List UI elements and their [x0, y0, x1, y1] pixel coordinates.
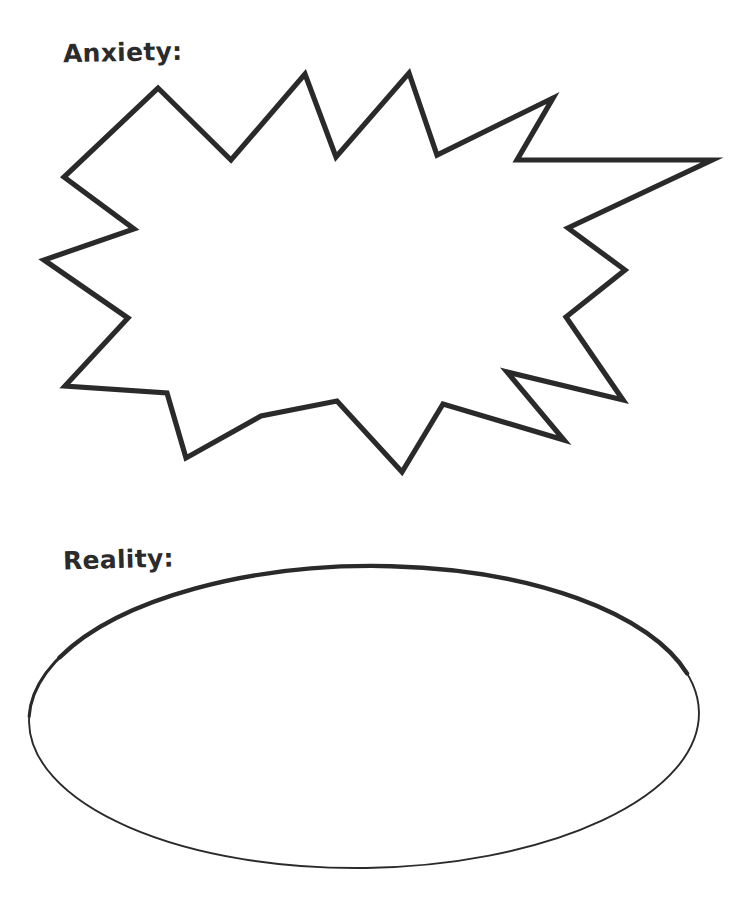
ellipse-heavy-stroke	[58, 561, 687, 682]
ellipse-heavy-stroke-top	[27, 577, 249, 717]
shapes-svg	[0, 0, 746, 906]
starburst-heavy-stroke-lower	[167, 393, 564, 472]
starburst-heavy-stroke-upper-left	[158, 74, 336, 160]
shapes-layer	[0, 0, 746, 906]
reality-ellipse-shape	[27, 561, 701, 872]
worksheet-page: Anxiety: Reality:	[0, 0, 746, 906]
starburst-heavy-stroke-upper-right	[437, 98, 712, 228]
ellipse-outline	[27, 561, 701, 872]
anxiety-starburst-shape	[44, 73, 712, 472]
reality-label: Reality:	[63, 543, 175, 575]
starburst-outline	[44, 73, 712, 472]
anxiety-label: Anxiety:	[63, 37, 183, 68]
